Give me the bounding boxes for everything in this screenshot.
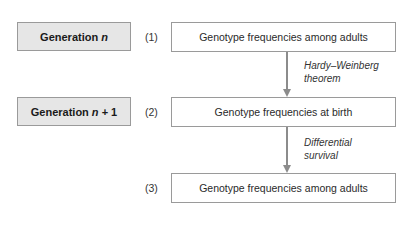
down-arrow-icon — [283, 52, 293, 97]
stage-box-adults-1: Genotype frequencies among adults — [171, 22, 396, 52]
stage-number-1: (1) — [145, 22, 158, 51]
stage-text: Genotype frequencies at birth — [215, 106, 353, 118]
generation-variable: n — [101, 31, 108, 43]
down-arrow-icon — [283, 127, 293, 173]
generation-label: Generation — [40, 31, 98, 43]
generation-n-plus-1-box: Generation n + 1 — [17, 97, 131, 126]
stage-text: Genotype frequencies among adults — [199, 182, 368, 194]
transition-label-hardy-weinberg: Hardy–Weinberg theorem — [304, 59, 379, 85]
generation-variable: n — [92, 106, 99, 118]
stage-number-2: (2) — [145, 97, 158, 126]
generation-suffix: + 1 — [99, 106, 118, 118]
stage-number-3: (3) — [145, 173, 158, 202]
generation-n-box: Generation n — [17, 22, 131, 51]
transition-label-differential-survival: Differential survival — [304, 136, 352, 162]
generation-label: Generation — [31, 106, 89, 118]
stage-text: Genotype frequencies among adults — [199, 31, 368, 43]
stage-box-birth: Genotype frequencies at birth — [171, 97, 396, 127]
stage-box-adults-3: Genotype frequencies among adults — [171, 173, 396, 203]
